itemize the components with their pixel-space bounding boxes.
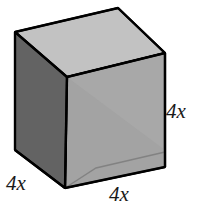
dimension-label-left: 4x [6,173,26,194]
dimension-label-bottom: 4x [109,184,129,205]
dimension-label-right: 4x [166,101,186,122]
cube-figure: 4x 4x 4x [0,0,205,208]
